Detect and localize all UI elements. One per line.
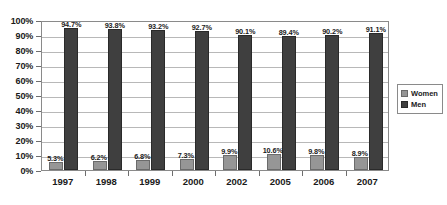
data-label-women-1998: 6.2%	[91, 153, 107, 162]
y-tick-mark	[36, 126, 41, 127]
bar-men-1998	[108, 29, 122, 170]
data-label-men-2002: 90.1%	[235, 27, 255, 36]
x-tick-label-1997: 1997	[52, 176, 73, 187]
data-label-women-2006: 9.8%	[308, 147, 324, 156]
data-label-men-1999: 93.2%	[148, 22, 168, 31]
data-label-women-2000: 7.3%	[178, 151, 194, 160]
data-label-men-2000: 92.7%	[192, 23, 212, 32]
x-tick-label-2005: 2005	[270, 176, 291, 187]
y-tick-label: 70%	[16, 61, 33, 71]
y-tick-mark	[36, 81, 41, 82]
y-tick-label: 40%	[16, 106, 33, 116]
bar-men-1997	[64, 28, 78, 170]
data-label-women-1997: 5.3%	[47, 154, 63, 163]
y-tick-label: 0%	[20, 166, 33, 176]
y-tick-label: 100%	[11, 16, 33, 26]
x-tick-mark	[128, 171, 129, 176]
legend-item-men: Men	[401, 99, 438, 110]
plot-area: 5.3%94.7%6.2%93.8%6.8%93.2%7.3%92.7%9.9%…	[41, 21, 389, 171]
chart-legend: Women Men	[397, 84, 443, 114]
x-tick-label-1998: 1998	[96, 176, 117, 187]
legend-swatch-women-icon	[401, 90, 408, 97]
y-tick-label: 50%	[16, 91, 33, 101]
y-tick-mark	[36, 36, 41, 37]
y-tick-mark	[36, 111, 41, 112]
data-label-women-2005: 10.6%	[263, 146, 283, 155]
data-label-women-1999: 6.8%	[134, 152, 150, 161]
bar-men-2002	[238, 35, 252, 170]
legend-swatch-men-icon	[401, 101, 408, 108]
y-tick-label: 90%	[16, 31, 33, 41]
legend-label-men: Men	[411, 100, 426, 109]
bar-chart: 0%10%20%30%40%50%60%70%80%90%100% 5.3%94…	[0, 0, 447, 205]
bar-women-2007	[354, 157, 368, 170]
y-tick-mark	[36, 156, 41, 157]
x-tick-mark	[259, 171, 260, 176]
x-tick-label-2000: 2000	[183, 176, 204, 187]
bar-men-2000	[195, 31, 209, 170]
x-axis: 19971998199920002002200520062007	[41, 176, 389, 194]
y-tick-mark	[36, 21, 41, 22]
data-label-men-1998: 93.8%	[105, 21, 125, 30]
data-label-women-2002: 9.9%	[221, 147, 237, 156]
bar-men-2005	[282, 36, 296, 170]
bar-women-2002	[223, 155, 237, 170]
bar-women-2006	[310, 155, 324, 170]
bar-women-1997	[49, 162, 63, 170]
y-axis: 0%10%20%30%40%50%60%70%80%90%100%	[0, 21, 38, 171]
bar-men-2006	[325, 35, 339, 170]
y-tick-mark	[36, 66, 41, 67]
bar-women-2000	[180, 159, 194, 170]
legend-label-women: Women	[411, 89, 438, 98]
x-tick-mark	[172, 171, 173, 176]
data-label-women-2007: 8.9%	[352, 149, 368, 158]
x-tick-label-2007: 2007	[357, 176, 378, 187]
y-tick-label: 30%	[16, 121, 33, 131]
y-tick-mark	[36, 51, 41, 52]
bar-women-1998	[93, 161, 107, 170]
x-tick-mark	[215, 171, 216, 176]
x-tick-mark	[346, 171, 347, 176]
bar-men-2007	[369, 33, 383, 170]
data-label-men-2005: 89.4%	[279, 28, 299, 37]
y-tick-mark	[36, 171, 41, 172]
y-tick-label: 10%	[16, 151, 33, 161]
y-tick-label: 60%	[16, 76, 33, 86]
y-tick-mark	[36, 96, 41, 97]
data-label-men-2006: 90.2%	[322, 27, 342, 36]
x-tick-label-1999: 1999	[139, 176, 160, 187]
y-tick-mark	[36, 141, 41, 142]
bar-women-1999	[136, 160, 150, 170]
legend-item-women: Women	[401, 88, 438, 99]
bar-men-1999	[151, 30, 165, 170]
data-label-men-2007: 91.1%	[366, 25, 386, 34]
x-tick-label-2006: 2006	[313, 176, 334, 187]
x-tick-mark	[85, 171, 86, 176]
x-tick-mark	[302, 171, 303, 176]
bar-women-2005	[267, 154, 281, 170]
y-tick-label: 20%	[16, 136, 33, 146]
data-label-men-1997: 94.7%	[61, 20, 81, 29]
x-tick-label-2002: 2002	[226, 176, 247, 187]
y-tick-label: 80%	[16, 46, 33, 56]
